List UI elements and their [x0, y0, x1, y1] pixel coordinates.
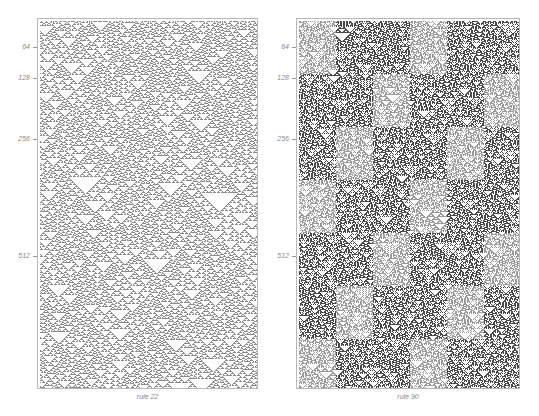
tick-256	[33, 139, 37, 140]
tick-label-512: 512	[6, 252, 30, 260]
tick-512	[33, 256, 37, 257]
ca-plot-rule-90	[296, 18, 520, 389]
tick-512	[292, 256, 296, 257]
tick-64	[33, 47, 37, 48]
cellular-automaton-pattern	[299, 21, 519, 388]
tick-256	[292, 139, 296, 140]
cellular-automaton-pattern	[40, 21, 257, 388]
tick-label-128: 128	[265, 74, 289, 82]
tick-label-64: 64	[265, 43, 289, 51]
ca-plot-rule-22	[37, 18, 258, 389]
tick-label-256: 256	[265, 135, 289, 143]
panel-caption-rule-22: rule 22	[37, 393, 258, 401]
tick-label-512: 512	[265, 252, 289, 260]
tick-label-64: 64	[6, 43, 30, 51]
tick-label-128: 128	[6, 74, 30, 82]
panel-caption-rule-90: rule 90	[296, 393, 520, 401]
tick-64	[292, 47, 296, 48]
tick-128	[292, 78, 296, 79]
tick-label-256: 256	[6, 135, 30, 143]
tick-128	[33, 78, 37, 79]
